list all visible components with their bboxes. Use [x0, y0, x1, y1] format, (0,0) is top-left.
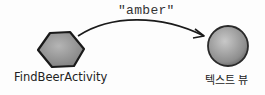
message-label: "amber": [118, 3, 175, 18]
target-label: 텍스트 뷰: [205, 71, 249, 87]
textview-circle: [208, 26, 248, 66]
activity-hexagon: [38, 32, 84, 67]
diagram: "amber" FindBeerActivity 텍스트 뷰: [0, 0, 265, 95]
source-label: FindBeerActivity: [14, 70, 107, 84]
message-arrow: [78, 20, 204, 36]
